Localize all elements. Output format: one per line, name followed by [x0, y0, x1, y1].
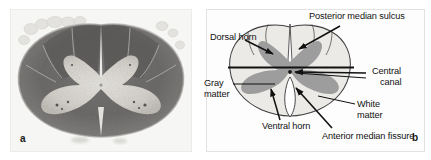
leader-central-canal-main [295, 72, 366, 73]
label-white-matter-line2: matter [357, 110, 382, 121]
panel-b-diagram: Posterior median sulcus Dorsal horn Cent… [200, 0, 431, 160]
spinal-cord-figure: a [0, 0, 431, 160]
central-canal-shape [288, 70, 292, 74]
label-central-canal-line2: canal [380, 77, 401, 88]
label-white-matter-line1: White [357, 99, 380, 110]
label-gray-matter-line1: Gray [204, 78, 224, 89]
label-anterior-median-fissure: Anterior median fissure [322, 131, 414, 142]
label-gray-matter-line2: matter [204, 89, 229, 100]
label-dorsal-horn: Dorsal horn [210, 32, 256, 43]
label-central-canal-line1: Central [372, 66, 401, 77]
panel-b-letter: b [412, 133, 418, 143]
panel-a-letter: a [20, 134, 26, 144]
central-canal-histology [99, 83, 102, 86]
panel-a-histology: a [0, 0, 200, 160]
label-ventral-horn: Ventral horn [262, 121, 310, 132]
label-posterior-median-sulcus: Posterior median sulcus [309, 11, 405, 22]
histology-image [10, 9, 192, 152]
